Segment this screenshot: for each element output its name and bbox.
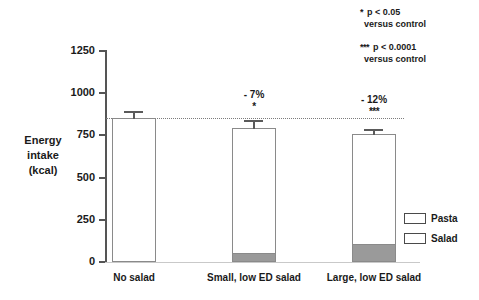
bar-segment-pasta: [352, 134, 396, 245]
legend-item-pasta: Pasta: [404, 213, 458, 224]
y-tick-label-500: 500: [51, 172, 95, 183]
bar-segment-salad: [232, 253, 276, 262]
bar-segment-pasta: [232, 128, 276, 254]
error-bar-cap-large-salad: [364, 129, 383, 131]
plot-area: 0 250 500 750 1000 1250 - 7% *: [0, 0, 479, 300]
bar-small-low-ed-salad: [232, 128, 276, 262]
significance-stars: ***: [334, 106, 414, 118]
y-tick-1000: [99, 92, 105, 94]
legend-label-pasta: Pasta: [431, 213, 458, 224]
percent-change-label: - 7%: [214, 89, 294, 101]
y-tick-label-0: 0: [51, 256, 95, 267]
error-bar-cap-no-salad: [124, 111, 143, 113]
y-tick-label-250-wrap: 250: [51, 214, 95, 225]
y-tick-label-1000: 1000: [51, 87, 95, 98]
percent-change-label: - 12%: [334, 94, 414, 106]
y-tick-500: [99, 177, 105, 179]
y-tick-750: [99, 134, 105, 136]
x-axis-label-large-salad: Large, low ED salad: [314, 272, 434, 284]
y-tick-label-750: 750: [51, 129, 95, 140]
y-tick-label-750-wrap: 750: [51, 129, 95, 140]
y-tick-label-250: 250: [51, 214, 95, 225]
x-axis-label-no-salad: No salad: [94, 272, 174, 284]
x-axis-label-small-salad: Small, low ED salad: [194, 272, 314, 284]
y-axis-line: [105, 50, 107, 263]
y-tick-250: [99, 219, 105, 221]
y-tick-label-1250: 1250: [51, 45, 95, 56]
legend-swatch-salad-icon: [404, 233, 426, 244]
error-bar-cap-small-salad: [244, 120, 263, 122]
x-axis-baseline: [105, 262, 420, 263]
chart-legend: Pasta Salad: [404, 213, 458, 253]
legend-label-salad: Salad: [431, 233, 458, 244]
y-tick-label-1250-wrap: 1250: [51, 45, 95, 56]
y-tick-1250: [99, 50, 105, 52]
bar-annotation-small-salad: - 7% *: [214, 89, 294, 113]
y-tick-0: [99, 261, 105, 263]
bar-segment-salad: [352, 244, 396, 262]
significance-stars: *: [214, 101, 294, 113]
bar-annotation-large-salad: - 12% ***: [334, 94, 414, 118]
y-tick-label-1000-wrap: 1000: [51, 87, 95, 98]
y-tick-label-500-wrap: 500: [51, 172, 95, 183]
legend-item-salad: Salad: [404, 233, 458, 244]
legend-swatch-pasta-icon: [404, 213, 426, 224]
bar-large-low-ed-salad: [352, 134, 396, 262]
y-tick-label-0-wrap: 0: [51, 256, 95, 267]
bar-no-salad: [112, 118, 156, 262]
bar-segment-pasta: [112, 118, 156, 262]
